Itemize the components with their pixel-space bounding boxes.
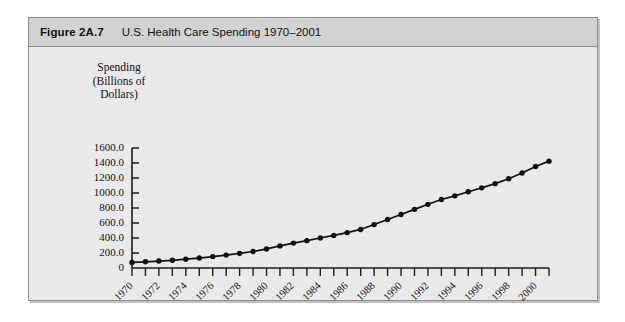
data-point — [492, 181, 497, 186]
data-point — [318, 235, 323, 240]
data-point — [156, 258, 161, 263]
y-axis-tick-label: 1400.0 — [62, 156, 124, 168]
data-point — [398, 212, 403, 217]
data-point — [452, 193, 457, 198]
data-point — [331, 233, 336, 238]
data-point — [197, 255, 202, 260]
y-axis-tick-label: 1200.0 — [62, 171, 124, 183]
data-point — [304, 238, 309, 243]
data-point — [277, 243, 282, 248]
data-point — [250, 249, 255, 254]
y-axis-tick-label: 1600.0 — [62, 141, 124, 153]
y-axis-tick-label: 600.0 — [62, 216, 124, 228]
data-point — [546, 158, 551, 163]
y-axis-tick-label: 400.0 — [62, 231, 124, 243]
data-point — [466, 189, 471, 194]
figure-header: Figure 2A.7 U.S. Health Care Spending 19… — [29, 18, 597, 47]
data-point — [371, 222, 376, 227]
data-point — [264, 246, 269, 251]
plot-body: Spending (Billions of Dollars) 1600.0140… — [29, 47, 597, 300]
y-axis-tick-label: 200.0 — [62, 246, 124, 258]
data-point — [479, 185, 484, 190]
y-axis-tick-label: 0 — [62, 261, 124, 273]
data-point — [412, 207, 417, 212]
data-point — [519, 170, 524, 175]
data-point — [129, 260, 134, 265]
figure-frame: Figure 2A.7 U.S. Health Care Spending 19… — [28, 17, 598, 301]
data-point — [223, 252, 228, 257]
data-point — [143, 259, 148, 264]
data-point — [358, 227, 363, 232]
data-point — [425, 202, 430, 207]
data-point — [170, 258, 175, 263]
data-point — [506, 176, 511, 181]
data-point — [345, 230, 350, 235]
y-axis-tick-label: 800.0 — [62, 201, 124, 213]
data-point — [385, 217, 390, 222]
series-line — [132, 161, 549, 262]
figure-title: U.S. Health Care Spending 1970–2001 — [122, 26, 321, 38]
data-point — [439, 197, 444, 202]
data-point — [237, 251, 242, 256]
y-axis-tick-label: 1000.0 — [62, 186, 124, 198]
data-point — [183, 257, 188, 262]
figure-number: Figure 2A.7 — [40, 26, 104, 38]
data-point — [533, 164, 538, 169]
line-chart: 1600.01400.01200.01000.0800.0600.0400.02… — [29, 47, 597, 300]
data-point — [210, 254, 215, 259]
data-point — [291, 240, 296, 245]
